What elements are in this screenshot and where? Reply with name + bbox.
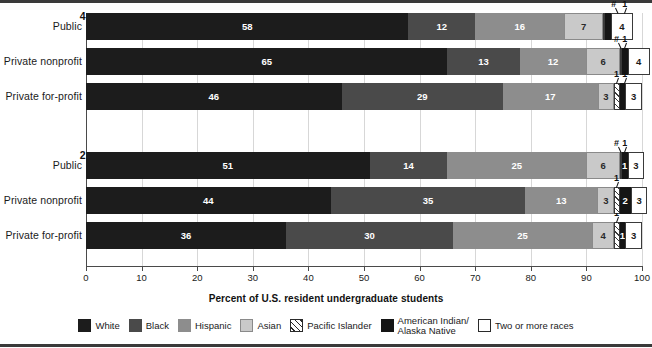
x-tick-label: 0 — [71, 272, 101, 283]
bar-segment-hispanic: 12 — [520, 48, 587, 75]
top-divider-rule — [0, 0, 652, 3]
x-tick — [531, 266, 532, 271]
x-axis-title: Percent of U.S. resident undergraduate s… — [0, 293, 652, 304]
bar-segment-asian: 7 — [564, 13, 603, 40]
legend-item-two[interactable]: Two or more races — [478, 319, 574, 332]
row-label: Public — [0, 159, 82, 171]
segment-value-label: 16 — [514, 22, 525, 32]
bar-row: 46291733 — [86, 83, 642, 110]
segment-value-label: 13 — [478, 57, 489, 67]
legend-item-hispanic[interactable]: Hispanic — [178, 319, 231, 332]
bar-segment-white: 36 — [86, 222, 286, 249]
bar-segment-asian: 4 — [592, 222, 614, 249]
bar-segment-asian: 3 — [598, 83, 615, 110]
legend-swatch-hispanic — [178, 319, 191, 332]
legend-label: Two or more races — [495, 321, 574, 331]
segment-value-label: 3 — [637, 196, 642, 206]
x-tick-label: 70 — [460, 272, 490, 283]
segment-value-label: 1 — [622, 161, 627, 171]
bar-segment-asian: 3 — [597, 187, 614, 214]
x-tick-label: 90 — [571, 272, 601, 283]
bar-segment-hispanic: 17 — [503, 83, 598, 110]
x-tick-label: 20 — [182, 272, 212, 283]
segment-value-label: 35 — [423, 196, 434, 206]
segment-value-label: 25 — [512, 161, 523, 171]
x-tick-label: 40 — [293, 272, 323, 283]
x-tick — [364, 266, 365, 271]
chart-legend: WhiteBlackHispanicAsianPacific IslanderA… — [0, 316, 652, 336]
segment-value-label: 30 — [364, 231, 375, 241]
plot-area: 5812167465131264462917335114256134435133… — [86, 13, 642, 266]
segment-value-label: 12 — [548, 57, 559, 67]
legend-item-black[interactable]: Black — [129, 319, 169, 332]
segment-value-label: 29 — [417, 92, 428, 102]
bar-segment-black: 12 — [408, 13, 475, 40]
segment-value-label: 7 — [581, 22, 586, 32]
bar-row: 443513323 — [86, 187, 647, 214]
segment-value-label: 3 — [603, 92, 608, 102]
legend-label: White — [95, 321, 119, 331]
x-tick — [420, 266, 421, 271]
x-tick-label: 50 — [349, 272, 379, 283]
bar-row: 511425613 — [86, 152, 644, 179]
bar-row: 65131264 — [86, 48, 650, 75]
legend-item-amind[interactable]: American Indian/ Alaska Native — [381, 316, 469, 336]
segment-value-label: 6 — [600, 57, 605, 67]
segment-value-label: 12 — [437, 22, 448, 32]
segment-value-label: 6 — [600, 161, 605, 171]
bar-segment-white: 65 — [86, 48, 447, 75]
legend-item-asian[interactable]: Asian — [240, 319, 281, 332]
bar-segment-two: 3 — [628, 152, 645, 179]
x-tick — [142, 266, 143, 271]
bar-segment-white: 46 — [86, 83, 342, 110]
x-tick-label: 30 — [238, 272, 268, 283]
bar-segment-black: 30 — [286, 222, 453, 249]
x-tick-label: 10 — [127, 272, 157, 283]
legend-label: Hispanic — [195, 321, 231, 331]
legend-label: Black — [146, 321, 169, 331]
bar-segment-amind: 2 — [620, 187, 631, 214]
row-label: Private nonprofit — [0, 55, 82, 67]
segment-value-label: 46 — [209, 92, 220, 102]
row-label: Private for-profit — [0, 90, 82, 102]
segment-value-label: 3 — [603, 196, 608, 206]
legend-item-white[interactable]: White — [78, 319, 119, 332]
segment-value-label: 14 — [403, 161, 414, 171]
legend-swatch-pacific — [290, 319, 303, 332]
x-tick — [253, 266, 254, 271]
bar-segment-white: 58 — [86, 13, 408, 40]
bar-segment-black: 29 — [342, 83, 503, 110]
segment-value-label: 44 — [203, 196, 214, 206]
bar-row: 58121674 — [86, 13, 633, 40]
row-label: Private for-profit — [0, 229, 82, 241]
x-tick — [475, 266, 476, 271]
segment-value-label: 17 — [545, 92, 556, 102]
segment-value-label: 3 — [633, 161, 638, 171]
bar-segment-white: 44 — [86, 187, 331, 214]
x-tick — [308, 266, 309, 271]
segment-value-label: 3 — [631, 92, 636, 102]
x-tick-label: 60 — [405, 272, 435, 283]
segment-value-label: 65 — [261, 57, 272, 67]
bottom-divider-rule — [0, 344, 652, 347]
bar-segment-two: 3 — [625, 83, 642, 110]
segment-value-label: 4 — [619, 22, 624, 32]
legend-swatch-white — [78, 319, 91, 332]
segment-value-label: 4 — [636, 57, 641, 67]
x-tick — [642, 266, 643, 271]
bar-segment-two: 3 — [625, 222, 642, 249]
bar-segment-black: 14 — [370, 152, 448, 179]
bar-segment-hispanic: 16 — [475, 13, 564, 40]
legend-label: Asian — [257, 321, 281, 331]
bar-segment-hispanic: 25 — [447, 152, 586, 179]
segment-value-label: 2 — [623, 196, 628, 206]
legend-label: American Indian/ Alaska Native — [398, 316, 469, 336]
segment-value-label: 1 — [620, 231, 625, 241]
bar-segment-white: 51 — [86, 152, 370, 179]
legend-item-pacific[interactable]: Pacific Islander — [290, 319, 371, 332]
bar-segment-hispanic: 13 — [525, 187, 597, 214]
x-tick-label: 80 — [516, 272, 546, 283]
bar-segment-black: 13 — [447, 48, 519, 75]
bar-segment-hispanic: 25 — [453, 222, 592, 249]
row-label: Private nonprofit — [0, 194, 82, 206]
